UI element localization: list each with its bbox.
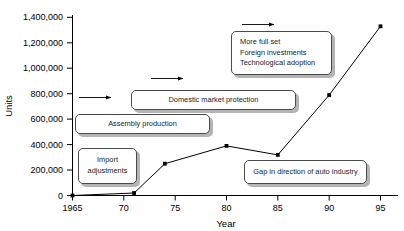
y-axis-ticks <box>67 17 73 195</box>
x-tick-label-2: 75 <box>170 203 180 213</box>
callout-gap-in-direction-line-0: Gap in direction of auto industry <box>253 167 357 178</box>
x-tick-label-4: 85 <box>273 203 283 213</box>
data-point-1971 <box>132 191 136 195</box>
x-axis-title: Year <box>216 218 235 229</box>
y-axis-title: Units <box>3 95 14 117</box>
callout-domestic-market-protection: Domestic market protection <box>131 90 296 110</box>
x-tick-label-5: 90 <box>324 203 334 213</box>
data-point-1995 <box>379 24 383 28</box>
y-tick-label-6: 1,200,000 <box>23 38 63 48</box>
data-point-1990 <box>327 93 331 97</box>
callout-import-adjustments-line-1: adjustments <box>88 166 128 177</box>
y-tick-label-0: 0 <box>58 191 63 201</box>
data-point-1974 <box>163 162 167 166</box>
y-tick-label-5: 1,000,000 <box>23 63 63 73</box>
callout-gap-in-direction: Gap in direction of auto industry <box>244 160 367 184</box>
callout-assembly-production-line-0: Assembly production <box>108 119 177 130</box>
callout-more-full-set-line-2: Technological adoption <box>240 58 315 69</box>
x-tick-label-6: 95 <box>375 203 385 213</box>
data-point-1965 <box>71 194 75 198</box>
y-tick-label-7: 1,400,000 <box>23 12 63 22</box>
x-tick-label-1: 70 <box>119 203 129 213</box>
data-point-1980 <box>225 144 229 148</box>
callout-domestic-market-protection-line-0: Domestic market protection <box>169 95 259 106</box>
callout-import-adjustments-line-0: Import <box>97 155 118 166</box>
y-tick-label-2: 400,000 <box>30 140 63 150</box>
x-tick-label-3: 80 <box>221 203 231 213</box>
y-tick-label-3: 600,000 <box>30 114 63 124</box>
callout-more-full-set: More full set Foreign investments Techno… <box>231 31 332 75</box>
y-tick-label-1: 200,000 <box>30 165 63 175</box>
x-axis-ticks <box>73 196 381 201</box>
data-point-1985 <box>276 153 280 157</box>
chart-container: 0 200,000 400,000 600,000 800,000 1,000,… <box>0 0 404 231</box>
callout-more-full-set-line-1: Foreign investments <box>240 48 307 59</box>
x-tick-label-0: 1965 <box>62 203 82 213</box>
y-tick-label-4: 800,000 <box>30 89 63 99</box>
callout-import-adjustments: Import adjustments <box>78 148 137 184</box>
callout-more-full-set-line-0: More full set <box>240 37 280 48</box>
callout-assembly-production: Assembly production <box>75 114 210 134</box>
